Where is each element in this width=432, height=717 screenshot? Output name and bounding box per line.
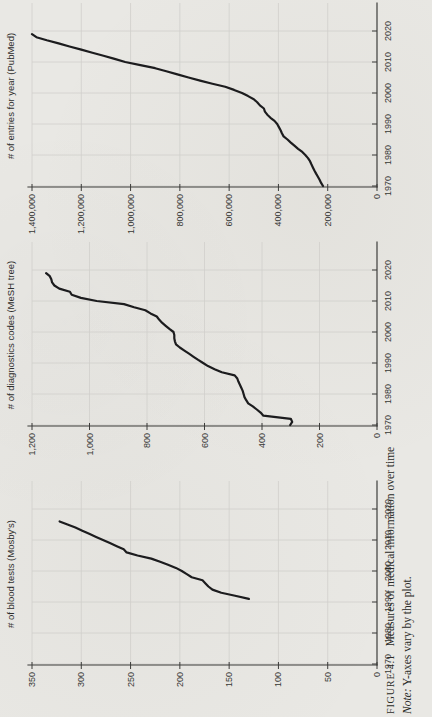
x-tick-label: 1980	[383, 145, 393, 165]
y-tick-label: 800,000	[175, 194, 185, 227]
x-tick-label: 2010	[383, 52, 393, 72]
figure-note-line: Note: Y-axes vary by the plot.	[400, 374, 415, 714]
x-tick-label: 2020	[383, 21, 393, 41]
y-tick-label: 50	[323, 672, 333, 682]
diagnostics-codes-chart: 02004006008001,0001,20019701980199020002…	[20, 239, 410, 478]
y-tick-label: 150	[224, 672, 234, 687]
x-tick-label: 1970	[383, 176, 393, 196]
tick-marks	[32, 31, 377, 191]
x-tick-label: 2010	[383, 291, 393, 311]
gridlines	[32, 481, 377, 665]
x-tick-label: 2020	[383, 260, 393, 280]
chart-title-blood-tests: # of blood tests (Mosby's)	[5, 480, 16, 668]
y-tick-label: 1,000,000	[126, 194, 136, 234]
y-tick-label: 1,400,000	[27, 194, 37, 234]
axes	[28, 3, 377, 187]
x-tick-label: 1990	[383, 114, 393, 134]
y-tick-label: 600	[200, 433, 210, 448]
data-line	[60, 521, 249, 599]
chart-panel-pubmed-entries: # of entries for year (PubMed) 0200,0004…	[0, 0, 412, 239]
figure-panels-row: # of blood tests (Mosby's) 0501001502002…	[0, 0, 412, 717]
gridlines	[32, 242, 377, 426]
chart-panel-diagnostics-codes-mesh: # of diagnostics codes (MeSH tree) 02004…	[0, 239, 412, 478]
y-tick-label: 350	[27, 672, 37, 687]
y-tick-label: 200	[315, 433, 325, 448]
y-tick-label: 400	[257, 433, 267, 448]
y-tick-label: 100	[273, 672, 283, 687]
y-tick-label: 300	[76, 672, 86, 687]
y-tick-label: 400,000	[273, 194, 283, 227]
chart-panel-blood-tests-mosbys: # of blood tests (Mosby's) 0501001502002…	[0, 478, 412, 717]
axis-labels: 0200,000400,000600,000800,0001,000,0001,…	[27, 21, 393, 234]
y-tick-label: 0	[372, 433, 382, 438]
x-tick-label: 2000	[383, 322, 393, 342]
chart-title-diagnostics-codes: # of diagnostics codes (MeSH tree)	[5, 241, 16, 429]
x-tick-label: 1990	[383, 353, 393, 373]
figure-number-label: FIGURE 4.1	[385, 654, 396, 714]
y-tick-label: 200,000	[323, 194, 333, 227]
figure-caption-line: FIGURE 4.1Measures of medical informatio…	[383, 374, 398, 714]
y-tick-label: 800	[142, 433, 152, 448]
y-tick-label: 250	[126, 672, 136, 687]
pubmed-entries-chart: 0200,000400,000600,000800,0001,000,0001,…	[20, 0, 410, 239]
y-tick-label: 1,000	[85, 433, 95, 456]
y-tick-label: 1,200,000	[76, 194, 86, 234]
data-line	[46, 273, 292, 425]
data-line	[32, 34, 323, 186]
y-tick-label: 0	[372, 672, 382, 677]
tick-marks	[32, 509, 377, 669]
y-tick-label: 0	[372, 194, 382, 199]
scanned-book-page: # of blood tests (Mosby's) 0501001502002…	[0, 0, 432, 717]
note-label: Note:	[401, 688, 413, 714]
figure-title-text: Measures of medical information over tim…	[384, 447, 396, 647]
blood-tests-chart: 0501001502002503003501970198019902000201…	[20, 478, 410, 717]
y-tick-label: 200	[175, 672, 185, 687]
y-tick-label: 1,200	[27, 433, 37, 456]
rotated-figure-page: # of blood tests (Mosby's) 0501001502002…	[0, 0, 432, 717]
note-text: Y-axes vary by the plot.	[401, 576, 413, 686]
y-tick-label: 600,000	[224, 194, 234, 227]
chart-title-pubmed-entries: # of entries for year (PubMed)	[5, 2, 16, 190]
gridlines	[32, 3, 377, 187]
x-tick-label: 2000	[383, 83, 393, 103]
axis-labels: 0501001502002503003501970198019902000201…	[27, 499, 393, 687]
figure-caption: FIGURE 4.1Measures of medical informatio…	[383, 374, 415, 714]
